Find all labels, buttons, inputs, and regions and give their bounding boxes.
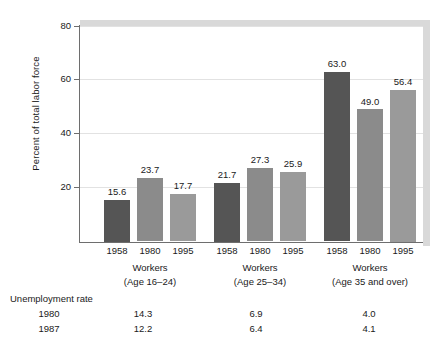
bar-value-g1-1980: 27.3 — [243, 154, 277, 165]
bar-value-g2-1995: 56.4 — [386, 76, 420, 87]
bar-g1-1958[interactable] — [214, 183, 240, 242]
bar-g2-1980[interactable] — [357, 109, 383, 241]
group-label-title-2: Workers — [290, 261, 446, 275]
y-tick-mark-40 — [74, 133, 80, 134]
x-tick-g2-1995: 1995 — [386, 245, 420, 256]
bar-chart-figure: Percent of total labor force 80 60 40 20… — [0, 0, 446, 353]
x-tick-g1-1995: 1995 — [276, 245, 310, 256]
bar-g0-1980[interactable] — [137, 178, 163, 242]
y-axis-title: Percent of total labor force — [30, 24, 41, 204]
bar-value-g1-1995: 25.9 — [276, 158, 310, 169]
table-cell-1987-age16-24: 12.2 — [113, 323, 173, 334]
table-cell-1987-age35-over: 4.1 — [339, 323, 399, 334]
table-cell-1980-age16-24: 14.3 — [113, 308, 173, 319]
x-tick-g0-1995: 1995 — [166, 245, 200, 256]
x-tick-g1-1958: 1958 — [210, 245, 244, 256]
bar-value-g0-1958: 15.6 — [100, 186, 134, 197]
group-label-age-35-over: Workers (Age 35 and over) — [290, 261, 446, 288]
bar-value-g0-1980: 23.7 — [133, 164, 167, 175]
x-tick-g2-1980: 1980 — [353, 245, 387, 256]
bar-value-g1-1958: 21.7 — [210, 169, 244, 180]
bar-g2-1958[interactable] — [324, 72, 350, 242]
unemployment-rate-title: Unemployment rate — [10, 293, 93, 304]
bar-value-g2-1958: 63.0 — [320, 58, 354, 69]
bar-value-g0-1995: 17.7 — [166, 180, 200, 191]
table-cell-1980-age25-34: 6.9 — [226, 308, 286, 319]
y-tick-label-80: 80 — [45, 20, 71, 31]
x-tick-g1-1980: 1980 — [243, 245, 277, 256]
plot-right-band — [423, 20, 430, 246]
bar-value-g2-1980: 49.0 — [353, 96, 387, 107]
bar-g2-1995[interactable] — [390, 90, 416, 242]
x-tick-g0-1980: 1980 — [133, 245, 167, 256]
bar-g0-1995[interactable] — [170, 194, 196, 242]
y-tick-label-20: 20 — [45, 181, 71, 192]
table-cell-1987-age25-34: 6.4 — [226, 323, 286, 334]
bar-g1-1980[interactable] — [247, 168, 273, 242]
bar-g0-1958[interactable] — [104, 200, 130, 242]
y-tick-mark-20 — [74, 187, 80, 188]
gridline-80 — [80, 26, 423, 27]
table-cell-1980-age35-over: 4.0 — [339, 308, 399, 319]
table-row-label-1980: 1980 — [25, 308, 73, 319]
gridline-60 — [80, 79, 423, 80]
y-tick-label-60: 60 — [45, 73, 71, 84]
y-axis-line — [79, 25, 80, 243]
group-label-subtitle-2: (Age 35 and over) — [290, 275, 446, 289]
x-tick-g0-1958: 1958 — [100, 245, 134, 256]
bar-g1-1995[interactable] — [280, 172, 306, 242]
y-tick-mark-80 — [74, 26, 80, 27]
table-row-label-1987: 1987 — [25, 323, 73, 334]
y-tick-label-40: 40 — [45, 127, 71, 138]
x-axis-line — [79, 242, 423, 243]
x-tick-g2-1958: 1958 — [320, 245, 354, 256]
y-tick-mark-60 — [74, 79, 80, 80]
